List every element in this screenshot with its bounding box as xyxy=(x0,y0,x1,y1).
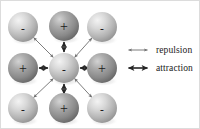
ionic-lattice-diagram: - + - + - + xyxy=(0,0,200,129)
ion-top-left: - xyxy=(8,12,38,42)
legend: repulsion attraction xyxy=(125,43,200,83)
ion-charge-label: + xyxy=(19,61,27,76)
double-arrow-bold-icon xyxy=(125,62,151,74)
ion-charge-label: + xyxy=(60,19,68,34)
ion-center: - xyxy=(49,53,79,83)
double-arrow-thin-icon xyxy=(125,44,151,56)
legend-label-attraction: attraction xyxy=(156,62,193,74)
ion-charge-label: - xyxy=(100,22,104,34)
ion-top-right: - xyxy=(87,12,117,42)
legend-item-attraction: attraction xyxy=(125,61,193,75)
lattice-canvas: - + - + - + xyxy=(1,1,121,129)
ion-charge-label: - xyxy=(21,22,25,34)
ion-bottom-center: + xyxy=(49,93,79,123)
ion-bottom-right: - xyxy=(87,93,117,123)
legend-item-repulsion: repulsion xyxy=(125,43,192,57)
arrow-repulsion-up-left xyxy=(34,38,54,58)
ion-middle-right: + xyxy=(87,53,117,83)
arrow-repulsion-down-right xyxy=(75,79,93,98)
ion-top-center: + xyxy=(49,11,79,41)
ion-bottom-left: - xyxy=(8,93,38,123)
ion-middle-left: + xyxy=(8,53,38,83)
ion-charge-label: + xyxy=(98,61,106,76)
ion-charge-label: + xyxy=(60,101,68,116)
legend-label-repulsion: repulsion xyxy=(156,44,192,56)
ion-charge-label: - xyxy=(62,63,66,75)
ion-charge-label: - xyxy=(100,103,104,115)
ion-spheres: - + - + - + xyxy=(8,11,117,123)
ion-charge-label: - xyxy=(21,103,25,115)
